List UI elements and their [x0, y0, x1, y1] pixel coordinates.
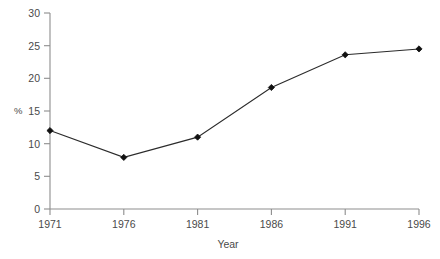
x-tick-label-1996: 1996: [407, 218, 431, 230]
data-point-1976: [121, 154, 127, 160]
y-tick-label-25: 25: [28, 40, 40, 52]
chart-plot-area: 30 25 20 15 10 5 0 % 1971 1976 1981 1986…: [0, 0, 440, 259]
x-tick-label-1991: 1991: [334, 218, 358, 230]
series-markers-group: [47, 46, 422, 161]
y-tick-label-20: 20: [28, 72, 40, 84]
line-chart-figure: 30 25 20 15 10 5 0 % 1971 1976 1981 1986…: [0, 0, 440, 259]
data-point-1996: [416, 46, 422, 52]
x-axis-label: Year: [217, 238, 239, 250]
x-tick-label-1976: 1976: [112, 218, 136, 230]
x-tick-label-1971: 1971: [38, 218, 62, 230]
data-point-1981: [195, 134, 201, 140]
y-tick-label-10: 10: [28, 138, 40, 150]
data-point-1971: [47, 128, 53, 134]
data-point-1991: [342, 52, 348, 58]
data-point-1986: [268, 84, 274, 90]
x-tick-label-1986: 1986: [260, 218, 284, 230]
x-tick-label-1981: 1981: [186, 218, 210, 230]
y-tick-label-15: 15: [28, 105, 40, 117]
series-line: [50, 49, 419, 157]
y-tick-label-0: 0: [34, 203, 40, 215]
y-axis-label: %: [14, 105, 23, 116]
y-tick-label-5: 5: [34, 170, 40, 182]
y-tick-label-30: 30: [28, 7, 40, 19]
